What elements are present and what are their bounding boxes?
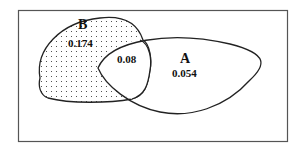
venn-diagram: B 0.174 0.08 A 0.054 (0, 0, 301, 149)
set-a-value: 0.054 (172, 67, 197, 79)
set-b-label: B (78, 17, 87, 32)
intersection-value: 0.08 (117, 53, 137, 65)
set-a-label: A (180, 51, 191, 66)
set-b-value: 0.174 (68, 37, 93, 49)
